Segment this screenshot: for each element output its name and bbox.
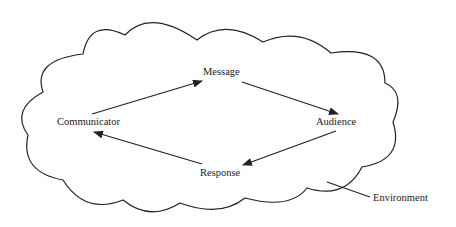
arrow-audience-to-response <box>243 131 336 165</box>
arrow-message-to-audience <box>242 82 338 114</box>
node-audience: Audience <box>316 117 356 128</box>
node-communicator: Communicator <box>57 117 120 128</box>
node-message: Message <box>203 67 240 78</box>
arrow-response-to-communicator <box>94 132 202 164</box>
arrow-communicator-to-message <box>92 81 202 114</box>
environment-label: Environment <box>373 193 428 204</box>
node-response: Response <box>200 168 240 179</box>
